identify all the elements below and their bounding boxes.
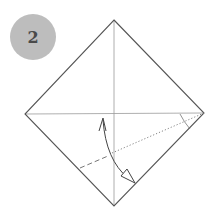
- origami-diagram: [0, 0, 219, 212]
- fold-arrow-icon: [103, 120, 128, 178]
- valley-fold-dashed: [80, 156, 108, 168]
- arrowhead-hollow-icon: [121, 169, 135, 183]
- angle-bisector-arc: [180, 114, 190, 129]
- hidden-fold-dotted: [112, 113, 204, 153]
- horizontal-diagonal-crease: [25, 113, 204, 114]
- arrowhead-up-icon: [99, 118, 106, 131]
